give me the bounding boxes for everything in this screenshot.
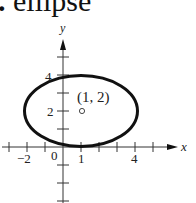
y-axis bbox=[60, 39, 66, 203]
center-point-marker bbox=[79, 108, 84, 113]
x-axis-label: x bbox=[180, 139, 187, 154]
x-axis-arrow-icon bbox=[167, 144, 178, 150]
y-axis-label: y bbox=[59, 21, 66, 35]
x-tick-label-neg2: −2 bbox=[17, 151, 31, 166]
x-tick-label-0: 0 bbox=[51, 148, 58, 163]
x-tick-label-1: 1 bbox=[78, 151, 85, 166]
ellipse-graph: (1, 2) y x 4 2 −2 0 1 4 bbox=[0, 0, 196, 203]
x-tick-label-4: 4 bbox=[131, 151, 138, 166]
y-tick-label-2: 2 bbox=[47, 104, 54, 119]
y-tick-label-4: 4 bbox=[45, 69, 52, 84]
center-point-label: (1, 2) bbox=[77, 89, 110, 106]
y-axis-arrow-icon bbox=[60, 39, 66, 50]
